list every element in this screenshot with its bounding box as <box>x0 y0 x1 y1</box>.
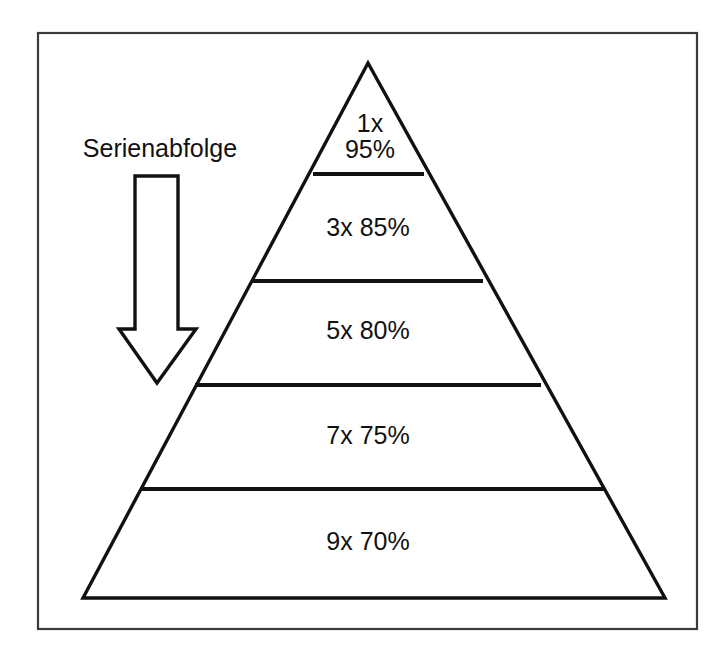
pyramid-level-1-intensity: 95% <box>345 135 395 163</box>
pyramid-level-2-label: 3x 85% <box>326 213 409 241</box>
pyramid-level-5-label: 9x 70% <box>326 527 409 555</box>
pyramid-level-4-label: 7x 75% <box>326 421 409 449</box>
serienabfolge-label: Serienabfolge <box>83 134 237 162</box>
down-arrow-icon <box>119 176 196 383</box>
figure-canvas: 1x 95% 3x 85% 5x 80% 7x 75% 9x 70% Serie… <box>0 0 725 661</box>
pyramid-level-1-sets: 1x <box>357 109 384 137</box>
pyramid-level-3-label: 5x 80% <box>326 316 409 344</box>
pyramid-diagram: 1x 95% 3x 85% 5x 80% 7x 75% 9x 70% Serie… <box>0 0 725 661</box>
